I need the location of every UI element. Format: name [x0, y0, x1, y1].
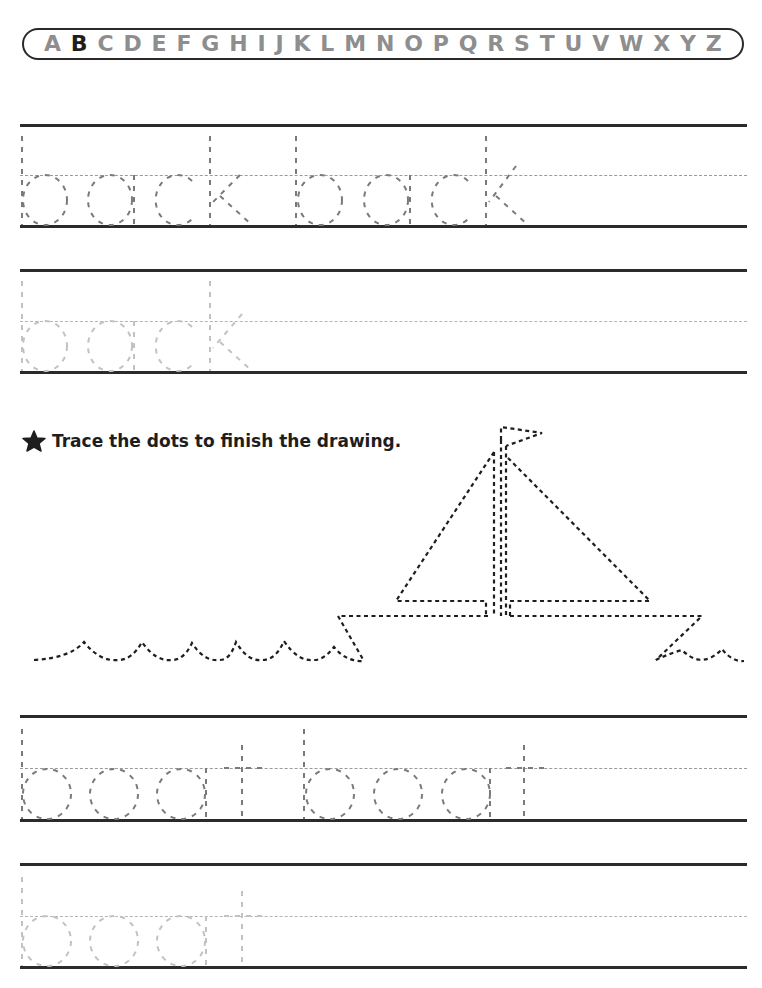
sailboat-tracing-drawing — [0, 0, 762, 988]
flag — [501, 427, 542, 446]
tracing-row-3: boat — [20, 715, 747, 823]
tracing-row-4: boat — [20, 863, 747, 971]
dotted-word-boat-boat — [20, 715, 747, 823]
dotted-word-boat-light — [20, 863, 747, 971]
